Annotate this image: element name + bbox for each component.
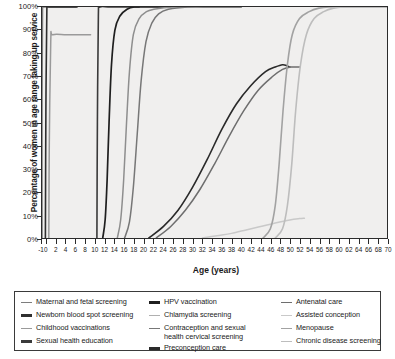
plot-area: [41, 6, 388, 239]
x-tick-mark: [124, 239, 125, 244]
x-tick-mark: [193, 239, 194, 244]
x-tick-label: 28: [179, 246, 186, 253]
x-tick-label: 8: [83, 246, 87, 253]
y-tick-label: 90%: [23, 25, 38, 34]
y-axis-title: Percentage of women in age range taking …: [30, 0, 39, 233]
x-tick-mark: [95, 239, 96, 244]
x-tick-label: 54: [306, 246, 313, 253]
chart-container: Percentage of women in age range taking …: [0, 0, 395, 285]
legend-column: HPV vaccinationChlamydia screeningContra…: [149, 297, 281, 350]
legend-item[interactable]: Assisted conception: [281, 310, 381, 322]
x-axis-title: Age (years): [41, 265, 391, 275]
x-tick-label: 4: [64, 246, 68, 253]
legend-column: Antenatal careAssisted conceptionMenopau…: [281, 297, 381, 350]
x-tick-mark: [251, 239, 252, 244]
legend-color-swatch: [281, 302, 292, 304]
legend-label: Childhood vaccinations: [36, 323, 110, 332]
x-tick-mark: [75, 239, 76, 244]
x-tick-mark: [320, 239, 321, 244]
legend-color-swatch: [149, 347, 160, 350]
legend-label: Maternal and fetal screening: [36, 297, 127, 306]
x-tick-mark: [368, 239, 369, 244]
x-tick-label: 62: [345, 246, 352, 253]
x-tick-label: -1: [38, 246, 44, 253]
legend-color-swatch: [149, 315, 160, 317]
x-tick-mark: [290, 239, 291, 244]
x-tick-label: 6: [73, 246, 77, 253]
x-tick-label: 42: [248, 246, 255, 253]
legend-label: Assisted conception: [296, 310, 360, 319]
x-tick-mark: [134, 239, 135, 244]
x-tick-mark: [222, 239, 223, 244]
series-line: [103, 7, 164, 238]
series-line: [275, 7, 387, 238]
x-tick-label: 56: [316, 246, 323, 253]
legend-color-swatch: [149, 301, 160, 304]
x-tick-label: 44: [257, 246, 264, 253]
legend-item[interactable]: Antenatal care: [281, 297, 381, 309]
x-tick-label: 0: [44, 246, 48, 253]
legend-label: HPV vaccination: [164, 297, 217, 306]
x-tick-label: 16: [121, 246, 128, 253]
legend-label: Contraception and sexual health cervical…: [164, 323, 246, 342]
series-lines: [42, 7, 387, 238]
x-tick-label: 46: [267, 246, 274, 253]
x-tick-mark: [261, 239, 262, 244]
legend-label: Sexual health education: [36, 336, 113, 345]
legend-item[interactable]: Menopause: [281, 323, 381, 335]
x-tick-mark: [144, 239, 145, 244]
y-tick-label: 70%: [23, 71, 38, 80]
y-tick-label: 30%: [23, 165, 38, 174]
x-tick-mark: [173, 239, 174, 244]
legend-color-swatch: [21, 340, 32, 343]
x-tick-mark: [310, 239, 311, 244]
x-tick-label: 24: [160, 246, 167, 253]
x-tick-mark: [349, 239, 350, 244]
legend-color-swatch: [21, 328, 32, 330]
x-tick-label: 26: [169, 246, 176, 253]
legend-item[interactable]: Chlamydia screening: [149, 310, 281, 322]
x-tick-label: 70: [384, 246, 391, 253]
legend-item[interactable]: Sexual health education: [21, 336, 149, 348]
x-tick-label: 12: [101, 246, 108, 253]
x-tick-label: 10: [91, 246, 98, 253]
y-tick-label: 60%: [23, 95, 38, 104]
x-tick-mark: [300, 239, 301, 244]
series-line: [263, 7, 387, 238]
x-tick-mark: [232, 239, 233, 244]
y-tick-label: 50%: [23, 118, 38, 127]
legend-item[interactable]: Chronic disease screening: [281, 336, 381, 348]
legend-item[interactable]: Maternal and fetal screening: [21, 297, 149, 309]
x-tick-label: 32: [199, 246, 206, 253]
x-tick-label: 50: [287, 246, 294, 253]
x-tick-mark: [280, 239, 281, 244]
x-tick-mark: [241, 239, 242, 244]
x-tick-mark: [46, 239, 47, 244]
x-tick-label: 36: [218, 246, 225, 253]
x-tick-mark: [114, 239, 115, 244]
x-tick-label: 30: [189, 246, 196, 253]
y-tick-label: 10%: [23, 211, 38, 220]
series-line: [117, 7, 241, 238]
x-tick-label: 64: [355, 246, 362, 253]
legend-item[interactable]: Newborn blood spot screening: [21, 310, 149, 322]
legend-item[interactable]: Contraception and sexual health cervical…: [149, 323, 281, 342]
legend-item[interactable]: HPV vaccination: [149, 297, 281, 309]
y-tick-label: 80%: [23, 48, 38, 57]
legend-color-swatch: [149, 328, 160, 330]
x-tick-mark: [56, 239, 57, 244]
x-tick-label: 52: [296, 246, 303, 253]
x-tick-label: 22: [150, 246, 157, 253]
x-tick-label: 60: [336, 246, 343, 253]
series-line: [149, 65, 290, 238]
x-tick-mark: [202, 239, 203, 244]
x-tick-label: 66: [365, 246, 372, 253]
x-tick-label: 58: [326, 246, 333, 253]
series-line: [156, 67, 299, 238]
legend-color-swatch: [281, 315, 292, 317]
legend-column: Maternal and fetal screeningNewborn bloo…: [21, 297, 149, 350]
legend-color-swatch: [281, 341, 292, 343]
legend-item[interactable]: Childhood vaccinations: [21, 323, 149, 335]
legend-item[interactable]: Preconception care: [149, 343, 281, 355]
x-tick-label: 38: [228, 246, 235, 253]
